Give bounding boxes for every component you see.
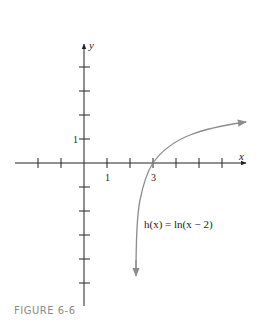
y-tick-label-1: 1 bbox=[73, 134, 78, 145]
x-tick-label-1: 1 bbox=[105, 172, 110, 183]
x-tick-label-3: 3 bbox=[151, 172, 156, 183]
figure-caption: FIGURE 6-6 bbox=[14, 305, 76, 316]
y-axis-label: y bbox=[88, 39, 94, 51]
function-label: h(x) = ln(x − 2) bbox=[144, 218, 213, 231]
x-axis-label: x bbox=[238, 150, 244, 162]
figure-canvas: y x 1 3 1 h(x) = ln(x − 2) bbox=[0, 0, 260, 329]
function-curve bbox=[136, 122, 246, 275]
